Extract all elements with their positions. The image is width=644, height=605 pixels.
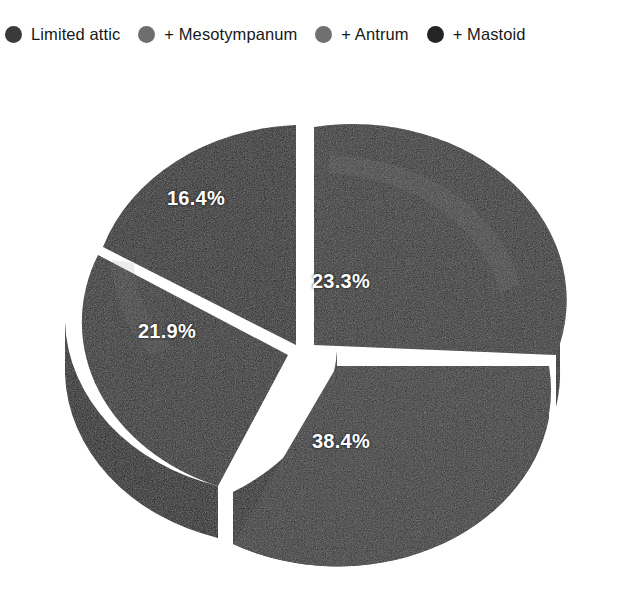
pie-slice-antrum[interactable]: [233, 366, 551, 566]
legend-item-label: + Antrum: [341, 25, 408, 44]
circle-marker-icon: [427, 26, 444, 43]
legend-item-label: + Mesotympanum: [164, 25, 297, 44]
pie-chart: 16.4% 23.3% 38.4% 21.9%: [0, 55, 644, 605]
chart-legend: Limited attic + Mesotympanum + Antrum + …: [0, 20, 644, 48]
legend-item-label: + Mastoid: [453, 25, 526, 44]
circle-marker-icon: [315, 26, 332, 43]
legend-item-antrum[interactable]: + Antrum: [315, 25, 408, 44]
circle-marker-icon: [138, 26, 155, 43]
pie-chart-canvas: [0, 55, 644, 605]
legend-item-mastoid[interactable]: + Mastoid: [427, 25, 526, 44]
legend-item-mesotympanum[interactable]: + Mesotympanum: [138, 25, 297, 44]
legend-item-limited-attic[interactable]: Limited attic: [5, 25, 120, 44]
circle-marker-icon: [5, 26, 22, 43]
legend-item-label: Limited attic: [31, 25, 120, 44]
